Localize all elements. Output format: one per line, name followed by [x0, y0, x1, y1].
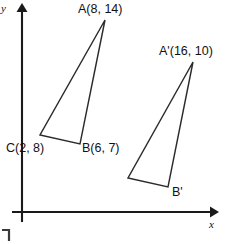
y-axis — [17, 3, 28, 222]
vertex-label-b: B(6, 7) — [82, 141, 120, 155]
vertex-label-a: A(8, 14) — [78, 2, 122, 16]
geometry-diagram: A(8, 14) B(6, 7) C(2, 8) A'(16, 10) B' x… — [0, 0, 237, 244]
vertex-label-a-prime: A'(16, 10) — [159, 44, 213, 58]
y-axis-arrowhead — [17, 3, 28, 12]
triangle-a-prime-b-prime-c-prime — [128, 62, 193, 187]
coordinate-plane-canvas: A(8, 14) B(6, 7) C(2, 8) A'(16, 10) B' x… — [0, 0, 237, 244]
corner-bracket-mark — [2, 230, 9, 241]
x-axis — [12, 207, 219, 218]
triangle-abc — [40, 20, 105, 144]
x-axis-arrowhead — [210, 207, 219, 218]
x-axis-label: x — [208, 218, 214, 230]
vertex-label-c: C(2, 8) — [6, 141, 44, 155]
vertex-label-b-prime: B' — [172, 185, 183, 199]
y-axis-label: y — [0, 2, 6, 14]
